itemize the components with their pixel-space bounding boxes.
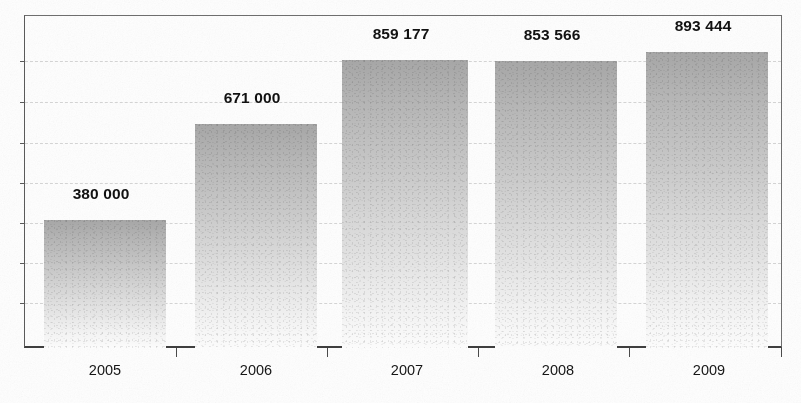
value-label-2007: 859 177 (325, 25, 477, 43)
value-label-2005: 380 000 (25, 185, 177, 203)
x-axis-tick (781, 348, 782, 357)
x-axis-labels: 2005 2006 2007 2008 2009 (24, 362, 782, 392)
bar-2005[interactable] (44, 220, 166, 348)
bar-chart: 380 000 671 000 859 177 853 566 893 444 … (0, 0, 801, 403)
x-axis-ticks (24, 348, 782, 357)
value-label-2009: 893 444 (627, 17, 779, 35)
x-axis-label-2005: 2005 (29, 362, 181, 378)
x-axis-label-2008: 2008 (482, 362, 634, 378)
x-axis-tick (176, 348, 177, 357)
bar-2008[interactable] (495, 61, 617, 348)
bars-layer (24, 15, 782, 348)
x-axis-label-2006: 2006 (180, 362, 332, 378)
bar-2007[interactable] (342, 60, 468, 348)
bar-2006[interactable] (195, 124, 317, 348)
x-axis-tick (478, 348, 479, 357)
x-axis-label-2009: 2009 (633, 362, 785, 378)
x-axis-tick (327, 348, 328, 357)
value-label-2008: 853 566 (476, 26, 628, 44)
x-axis-tick (629, 348, 630, 357)
x-axis-label-2007: 2007 (331, 362, 483, 378)
value-label-2006: 671 000 (176, 89, 328, 107)
bar-2009[interactable] (646, 52, 768, 348)
